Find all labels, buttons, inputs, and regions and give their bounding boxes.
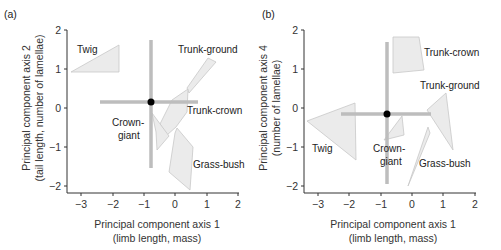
panel-b-label: (b) (262, 8, 275, 20)
panel-b-x-ticks: −3 −2 −1 0 1 2 (312, 193, 478, 210)
hull-trunk-crown (393, 37, 424, 73)
x-tick-label: 1 (440, 198, 446, 210)
panel-a-x-axis-subtitle: (limb length, mass) (113, 232, 202, 244)
y-tick-label: −2 (286, 180, 298, 192)
label-crown: Crown- (112, 117, 144, 128)
x-tick-label: 2 (472, 198, 478, 210)
label-twig: Twig (77, 44, 98, 55)
label-grass-bush: Grass-bush (193, 159, 245, 170)
y-tick-label: 0 (55, 102, 61, 114)
panel-a-y-axis-title: Principal component axis 2 (20, 45, 32, 171)
label-trunk-crown: Trunk-crown (424, 47, 479, 58)
y-tick-label: 0 (292, 102, 298, 114)
x-tick-label: 1 (204, 198, 210, 210)
panel-a-label: (a) (4, 8, 17, 20)
y-tick-label: 2 (55, 24, 61, 36)
y-tick-label: 1 (55, 63, 61, 75)
x-tick-label: 2 (235, 198, 241, 210)
y-tick-label: 2 (292, 24, 298, 36)
panel-b-y-axis-title: Principal component axis 4 (257, 45, 269, 171)
panel-b-y-axis-subtitle: (number of lamellae) (270, 60, 282, 156)
centroid-point (384, 111, 391, 118)
x-tick-label: −2 (107, 198, 119, 210)
label-giant: giant (380, 156, 402, 167)
panel-a-x-ticks: −3 −2 −1 0 1 2 (75, 193, 241, 210)
panel-b-x-axis-title: Principal component axis 1 (330, 218, 456, 230)
label-grass-bush: Grass-bush (419, 158, 471, 169)
hull-grass-bush (169, 128, 193, 190)
x-tick-label: −2 (343, 198, 355, 210)
x-tick-label: 0 (409, 198, 415, 210)
label-giant: giant (118, 130, 140, 141)
panel-b-y-ticks: 2 1 0 −1 −2 (286, 24, 304, 192)
hull-trunk-ground (187, 58, 216, 93)
y-tick-label: −1 (49, 141, 61, 153)
y-tick-label: −1 (286, 141, 298, 153)
label-trunk-ground: Trunk-ground (178, 44, 238, 55)
x-tick-label: −1 (138, 198, 150, 210)
y-tick-label: 1 (292, 63, 298, 75)
figure: (a) 2 1 0 −1 −2 −3 −2 −1 0 (0, 0, 501, 250)
x-tick-label: −1 (375, 198, 387, 210)
hull-trunk-ground (427, 93, 453, 150)
panel-a-x-axis-title: Principal component axis 1 (94, 218, 220, 230)
label-crown: Crown- (373, 143, 405, 154)
x-tick-label: 0 (172, 198, 178, 210)
x-tick-label: −3 (312, 198, 324, 210)
panel-a: (a) 2 1 0 −1 −2 −3 −2 −1 0 (4, 8, 245, 244)
panel-a-y-ticks: 2 1 0 −1 −2 (49, 24, 67, 192)
panel-a-y-axis-subtitle: (tail length, number of lamellae) (33, 34, 45, 181)
label-trunk-ground: Trunk-ground (420, 80, 480, 91)
panel-b-x-axis-subtitle: (limb length, mass) (349, 232, 438, 244)
panel-b: (b) 2 1 0 −1 −2 −3 −2 −1 0 1 2 (257, 8, 480, 244)
x-tick-label: −3 (75, 198, 87, 210)
hull-trunk-crown (160, 89, 188, 135)
label-trunk-crown: Trunk-crown (187, 105, 242, 116)
hull-grass-bush (408, 127, 430, 186)
label-twig: Twig (312, 143, 333, 154)
centroid-point (148, 99, 155, 106)
y-tick-label: −2 (49, 180, 61, 192)
